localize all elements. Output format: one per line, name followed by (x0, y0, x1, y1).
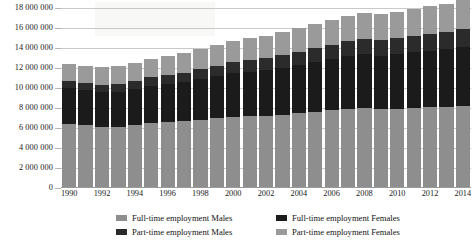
bar-segment[interactable] (308, 112, 322, 189)
legend-item[interactable]: Part-time employment Males (116, 225, 276, 239)
bar-segment[interactable] (390, 109, 404, 189)
bar-segment[interactable] (407, 52, 421, 108)
stacked-bar[interactable] (439, 4, 453, 188)
stacked-bar[interactable] (144, 59, 158, 188)
bar-segment[interactable] (259, 116, 273, 189)
bar-segment[interactable] (111, 127, 125, 189)
bar-segment[interactable] (78, 66, 92, 83)
stacked-bar[interactable] (390, 12, 404, 188)
bar-segment[interactable] (226, 62, 240, 73)
bar-segment[interactable] (308, 24, 322, 48)
stacked-bar[interactable] (210, 45, 224, 188)
stacked-bar[interactable] (226, 41, 240, 188)
stacked-bar[interactable] (161, 56, 175, 188)
stacked-bar[interactable] (423, 6, 437, 188)
bar-segment[interactable] (128, 89, 142, 125)
bar-segment[interactable] (390, 38, 404, 54)
bar-segment[interactable] (357, 108, 371, 189)
bar-segment[interactable] (374, 40, 388, 56)
bar-segment[interactable] (193, 69, 207, 79)
stacked-bar[interactable] (62, 64, 76, 188)
bar-segment[interactable] (275, 68, 289, 115)
bar-segment[interactable] (325, 45, 339, 59)
legend-item[interactable]: Full-time employment Females (276, 211, 461, 225)
bar-segment[interactable] (407, 108, 421, 189)
bar-segment[interactable] (292, 28, 306, 51)
bar-segment[interactable] (95, 67, 109, 84)
bar-segment[interactable] (374, 14, 388, 40)
stacked-bar[interactable] (78, 66, 92, 188)
bar-segment[interactable] (456, 47, 470, 106)
bar-segment[interactable] (259, 58, 273, 70)
stacked-bar[interactable] (259, 36, 273, 188)
bar-segment[interactable] (357, 13, 371, 38)
stacked-bar[interactable] (292, 28, 306, 188)
stacked-bar[interactable] (193, 49, 207, 188)
bar-segment[interactable] (308, 62, 322, 112)
bar-segment[interactable] (243, 38, 257, 60)
bar-segment[interactable] (144, 59, 158, 78)
bar-segment[interactable] (439, 32, 453, 50)
bar-segment[interactable] (144, 77, 158, 86)
bar-segment[interactable] (111, 92, 125, 127)
bar-segment[interactable] (226, 41, 240, 62)
bar-segment[interactable] (78, 83, 92, 90)
bar-segment[interactable] (423, 107, 437, 188)
bar-segment[interactable] (111, 84, 125, 92)
bar-segment[interactable] (259, 36, 273, 58)
bar-segment[interactable] (128, 63, 142, 81)
bar-segment[interactable] (407, 9, 421, 36)
bar-segment[interactable] (423, 51, 437, 108)
bar-segment[interactable] (357, 54, 371, 108)
bar-segment[interactable] (259, 70, 273, 116)
bar-segment[interactable] (95, 127, 109, 189)
bar-segment[interactable] (128, 125, 142, 188)
stacked-bar[interactable] (95, 67, 109, 188)
bar-segment[interactable] (177, 121, 191, 188)
bar-segment[interactable] (439, 4, 453, 32)
bar-segment[interactable] (144, 123, 158, 188)
bar-segment[interactable] (325, 20, 339, 44)
stacked-bar[interactable] (308, 24, 322, 188)
stacked-bar[interactable] (177, 53, 191, 188)
bar-segment[interactable] (374, 56, 388, 110)
bar-segment[interactable] (423, 6, 437, 33)
bar-segment[interactable] (226, 73, 240, 117)
bar-segment[interactable] (292, 52, 306, 65)
bar-segment[interactable] (95, 85, 109, 92)
legend-item[interactable]: Full-time employment Males (116, 211, 276, 225)
stacked-bar[interactable] (275, 32, 289, 188)
bar-segment[interactable] (210, 118, 224, 188)
bar-segment[interactable] (78, 90, 92, 125)
bar-segment[interactable] (226, 117, 240, 189)
bar-segment[interactable] (128, 81, 142, 89)
bar-segment[interactable] (374, 109, 388, 188)
bar-segment[interactable] (341, 41, 355, 56)
bar-segment[interactable] (210, 66, 224, 77)
bar-segment[interactable] (210, 45, 224, 66)
bar-segment[interactable] (161, 122, 175, 188)
bar-segment[interactable] (275, 115, 289, 189)
stacked-bar[interactable] (341, 16, 355, 188)
bar-segment[interactable] (193, 79, 207, 120)
bar-segment[interactable] (357, 39, 371, 54)
bar-segment[interactable] (243, 72, 257, 117)
bar-segment[interactable] (193, 120, 207, 189)
bar-segment[interactable] (177, 53, 191, 73)
bar-segment[interactable] (456, 106, 470, 189)
bar-segment[interactable] (177, 73, 191, 83)
stacked-bar[interactable] (243, 38, 257, 188)
bar-segment[interactable] (407, 36, 421, 53)
bar-segment[interactable] (62, 81, 76, 88)
bar-segment[interactable] (341, 16, 355, 41)
bar-segment[interactable] (193, 49, 207, 69)
bar-segment[interactable] (111, 66, 125, 84)
bar-segment[interactable] (243, 60, 257, 72)
bar-segment[interactable] (390, 12, 404, 38)
bar-segment[interactable] (161, 75, 175, 84)
stacked-bar[interactable] (374, 14, 388, 188)
bar-segment[interactable] (62, 88, 76, 124)
bar-segment[interactable] (456, 29, 470, 47)
bar-segment[interactable] (341, 109, 355, 189)
bar-segment[interactable] (275, 32, 289, 55)
